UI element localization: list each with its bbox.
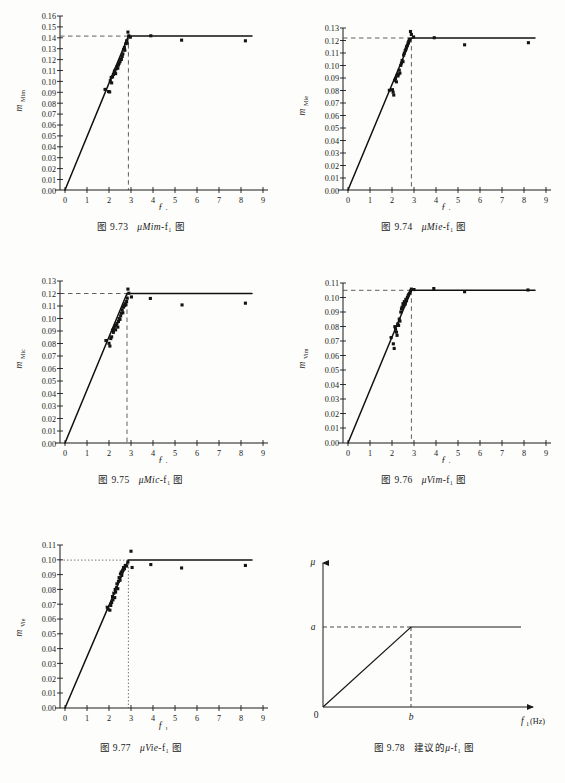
fit-line-9-76 — [348, 290, 535, 443]
svg-text:1: 1 — [85, 714, 89, 723]
caption-symbol-9-76: μVim — [422, 475, 443, 485]
svg-text:0.05: 0.05 — [325, 124, 339, 133]
svg-text:0.01: 0.01 — [325, 424, 339, 433]
caption-symbol-9-75: μMic — [139, 475, 160, 485]
svg-text:5: 5 — [173, 714, 177, 723]
svg-text:7: 7 — [217, 714, 221, 723]
plot-area-9-73: 0.16 0.15 0.14 0.13 0.12 0.11 0.10 0.09 … — [0, 0, 282, 205]
x-axis-title-sub-9-74: 1 — [448, 207, 451, 210]
caption-fig-9-74: 图 9.74μMie-f₁ 图 — [283, 219, 565, 233]
x-axis-title-9-76: f 1 — [442, 456, 451, 463]
y-axis-title-9-78: μ — [310, 557, 316, 567]
svg-text:0.11: 0.11 — [325, 49, 339, 58]
plot-area-9-78: μ a b 0 f 1 (Hz) — [283, 515, 565, 720]
svg-text:0.11: 0.11 — [325, 279, 339, 288]
svg-text:0.08: 0.08 — [325, 87, 339, 96]
svg-text:0.02: 0.02 — [42, 675, 56, 684]
data-point — [244, 302, 247, 305]
data-point — [392, 91, 395, 94]
y-axis-title-text-9-77: m — [14, 629, 24, 636]
svg-text:0.04: 0.04 — [325, 381, 339, 390]
caption-number-9-77: 图 9.77 — [100, 743, 131, 753]
svg-text:7: 7 — [217, 196, 221, 205]
svg-text:0.03: 0.03 — [325, 395, 339, 404]
y-axis-title-text-9-75: m — [14, 361, 24, 368]
scatter-chart-9-73: 0.16 0.15 0.14 0.13 0.12 0.11 0.10 0.09 … — [0, 0, 282, 210]
svg-text:6: 6 — [195, 196, 199, 205]
data-point — [392, 93, 395, 96]
data-point — [114, 591, 117, 594]
panel-fig-9-73: 0.16 0.15 0.14 0.13 0.12 0.11 0.10 0.09 … — [0, 0, 282, 250]
caption-fig-9-73: 图 9.73μMim-f₁ 图 — [0, 219, 282, 233]
data-point — [395, 80, 398, 83]
data-point — [180, 566, 183, 569]
data-point — [103, 88, 106, 91]
data-point — [104, 339, 107, 342]
y-axis-title-9-75: m Mic — [14, 349, 26, 369]
svg-text:0.03: 0.03 — [42, 402, 56, 411]
caption-number-9-75: 图 9.75 — [98, 475, 129, 485]
data-point — [119, 314, 122, 317]
svg-text:0.01: 0.01 — [325, 174, 339, 183]
caption-fig-9-76: 图 9.76μVim-f₁ 图 — [283, 472, 565, 486]
svg-text:0.01: 0.01 — [42, 176, 56, 185]
data-point — [124, 303, 127, 306]
x-axis-title-text-9-73: f — [159, 203, 163, 210]
svg-text:1: 1 — [368, 196, 372, 205]
svg-text:2: 2 — [107, 714, 111, 723]
svg-text:0.09: 0.09 — [42, 327, 56, 336]
data-point — [116, 587, 119, 590]
x-axis-unit-9-78: (Hz) — [530, 717, 545, 726]
svg-text:6: 6 — [195, 449, 199, 458]
data-point — [394, 328, 397, 331]
svg-text:0.00: 0.00 — [42, 704, 56, 713]
svg-text:0.10: 0.10 — [42, 78, 56, 87]
svg-text:0.12: 0.12 — [42, 56, 56, 65]
data-point — [399, 311, 402, 314]
data-point — [108, 90, 111, 93]
svg-text:2: 2 — [390, 449, 394, 458]
y-axis-title-text-9-76: m — [297, 361, 307, 368]
svg-text:0.10: 0.10 — [42, 556, 56, 565]
svg-text:0.07: 0.07 — [42, 601, 56, 610]
svg-text:0.05: 0.05 — [42, 132, 56, 141]
svg-text:0.14: 0.14 — [42, 34, 56, 43]
data-point — [120, 574, 123, 577]
scatter-chart-9-74: 0.13 0.12 0.11 0.10 0.09 0.08 0.07 0.06 … — [283, 0, 565, 210]
plot-area-9-77: 0.11 0.10 0.09 0.08 0.07 0.06 0.05 0.04 … — [0, 515, 282, 720]
data-point — [107, 342, 110, 345]
y-axis-title-sub-9-77: Vie — [19, 618, 26, 627]
svg-text:0.00: 0.00 — [325, 187, 339, 196]
svg-text:3: 3 — [412, 449, 416, 458]
data-point — [114, 72, 117, 75]
svg-text:5: 5 — [173, 196, 177, 205]
svg-text:0.09: 0.09 — [325, 74, 339, 83]
fit-line-9-74 — [348, 38, 535, 190]
data-point — [116, 67, 119, 70]
svg-text:6: 6 — [195, 714, 199, 723]
data-point — [123, 49, 126, 52]
schematic-chart-9-78: μ a b 0 f 1 (Hz) — [283, 515, 565, 730]
panel-fig-9-78: μ a b 0 f 1 (Hz) 图 9.78建议的μ-f₁ 图 — [283, 515, 565, 783]
svg-text:0: 0 — [63, 449, 67, 458]
y-axis-title-9-74: m Mie — [297, 96, 309, 116]
svg-text:8: 8 — [239, 449, 243, 458]
caption-tail-9-76: -f₁ 图 — [443, 475, 467, 485]
data-point — [110, 81, 113, 84]
fit-line-9-75 — [65, 294, 252, 444]
svg-text:0.00: 0.00 — [42, 187, 56, 196]
data-point — [116, 326, 119, 329]
svg-text:0.02: 0.02 — [325, 410, 339, 419]
caption-symbol-9-73: μMim — [137, 222, 161, 232]
svg-text:0.16: 0.16 — [42, 12, 56, 21]
svg-text:7: 7 — [217, 449, 221, 458]
svg-text:0.13: 0.13 — [42, 45, 56, 54]
scatter-chart-9-77: 0.11 0.10 0.09 0.08 0.07 0.06 0.05 0.04 … — [0, 515, 282, 730]
caption-tail-9-73: -f₁ 图 — [161, 222, 185, 232]
data-point — [408, 38, 411, 41]
svg-text:3: 3 — [129, 714, 133, 723]
x-axis-title-9-75: f 1 — [159, 456, 168, 463]
svg-text:8: 8 — [239, 196, 243, 205]
figure-row-1: 0.16 0.15 0.14 0.13 0.12 0.11 0.10 0.09 … — [0, 0, 565, 250]
data-point — [432, 287, 435, 290]
